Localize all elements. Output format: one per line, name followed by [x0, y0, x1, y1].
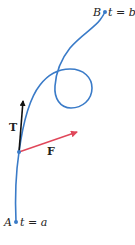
curve-path [16, 12, 105, 222]
point-b-label: B [93, 7, 101, 18]
point-a-dot [14, 220, 18, 224]
diagram-canvas [0, 0, 135, 245]
point-a-label: A [4, 217, 12, 228]
point-b-param: t = b [108, 7, 135, 18]
tangent-vector-arrow [19, 101, 23, 152]
point-b-dot [103, 10, 107, 14]
tangent-vector-label: T [9, 122, 17, 133]
point-a-param: t = a [20, 217, 47, 228]
point-mid-dot [17, 150, 21, 154]
force-vector-label: F [47, 146, 55, 157]
